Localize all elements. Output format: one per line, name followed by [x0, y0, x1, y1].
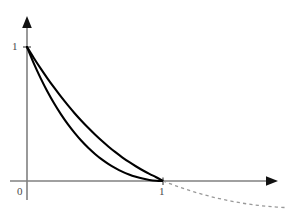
curves-group: [27, 47, 285, 208]
y-axis-tick-label-one: 1: [12, 41, 18, 52]
origin-tick-label: 0: [17, 186, 23, 197]
upper-curve-path: [27, 47, 163, 181]
y-axis-arrowhead-icon: [22, 16, 32, 28]
figure-canvas: 1 0 1: [0, 0, 287, 210]
axes-group: [10, 16, 278, 200]
x-axis-tick-label-one: 1: [159, 186, 165, 197]
tick-marks-group: [23, 47, 163, 185]
lower-curve-path: [27, 47, 163, 181]
x-axis-arrowhead-icon: [266, 176, 278, 186]
plot-svg: [0, 0, 287, 210]
